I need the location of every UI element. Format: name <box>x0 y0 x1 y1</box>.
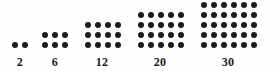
dot <box>158 42 164 48</box>
dot <box>168 22 174 28</box>
dot <box>138 12 144 18</box>
dot <box>241 42 247 48</box>
dot <box>231 22 237 28</box>
dot <box>85 22 91 28</box>
dot <box>211 22 217 28</box>
dot <box>85 32 91 38</box>
dot <box>42 32 48 38</box>
dot <box>115 22 121 28</box>
dot <box>251 32 257 38</box>
dot <box>115 42 121 48</box>
dot-group-20 <box>136 10 186 50</box>
dot <box>158 32 164 38</box>
dot-group-30 <box>199 0 259 50</box>
dot <box>251 2 257 8</box>
dot <box>52 32 58 38</box>
dot <box>241 2 247 8</box>
dot <box>211 2 217 8</box>
dot <box>95 32 101 38</box>
dot <box>211 32 217 38</box>
dot <box>42 42 48 48</box>
dot-group-12 <box>83 20 123 50</box>
dot <box>12 42 18 48</box>
dot <box>231 32 237 38</box>
dot <box>138 22 144 28</box>
dot <box>178 32 184 38</box>
dot <box>241 22 247 28</box>
dot <box>115 32 121 38</box>
dot <box>221 32 227 38</box>
dot <box>241 32 247 38</box>
dot <box>201 22 207 28</box>
dot <box>221 42 227 48</box>
dot <box>201 2 207 8</box>
dot <box>52 42 58 48</box>
dot <box>221 12 227 18</box>
dot <box>201 32 207 38</box>
dot <box>168 12 174 18</box>
dot <box>105 22 111 28</box>
dot <box>148 42 154 48</box>
dot <box>178 42 184 48</box>
dot-group-label-2: 2 <box>8 55 32 69</box>
dot <box>158 12 164 18</box>
dot-group-label-20: 20 <box>133 55 187 69</box>
dot-group-2 <box>10 40 30 50</box>
dot-group-label-30: 30 <box>196 55 260 69</box>
dot <box>168 42 174 48</box>
dot <box>231 42 237 48</box>
dot <box>148 32 154 38</box>
dot <box>231 12 237 18</box>
dot <box>221 22 227 28</box>
dot <box>231 2 237 8</box>
dot <box>178 22 184 28</box>
dot <box>251 22 257 28</box>
dot <box>62 42 68 48</box>
dot <box>138 42 144 48</box>
dot <box>251 42 257 48</box>
dot-grid <box>83 20 123 50</box>
dot <box>178 12 184 18</box>
dot <box>201 42 207 48</box>
dot <box>211 12 217 18</box>
dot <box>62 32 68 38</box>
dot <box>105 32 111 38</box>
dot <box>22 42 28 48</box>
dot-grid <box>199 0 259 50</box>
dot <box>211 42 217 48</box>
dot <box>148 12 154 18</box>
dot <box>221 2 227 8</box>
dot <box>95 42 101 48</box>
dot-pattern-figure: 26122030 <box>0 0 278 71</box>
dot <box>105 42 111 48</box>
dot <box>138 32 144 38</box>
dot-grid <box>10 40 30 50</box>
dot-group-label-6: 6 <box>38 55 72 69</box>
dot <box>85 42 91 48</box>
dot <box>95 22 101 28</box>
dot-grid <box>40 30 70 50</box>
dot <box>201 12 207 18</box>
dot <box>168 32 174 38</box>
dot <box>158 22 164 28</box>
dot-grid <box>136 10 186 50</box>
dot <box>251 12 257 18</box>
dot <box>148 22 154 28</box>
dot-group-6 <box>40 30 70 50</box>
dot-group-label-12: 12 <box>80 55 124 69</box>
dot <box>241 12 247 18</box>
